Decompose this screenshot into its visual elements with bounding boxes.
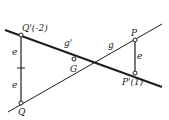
line-g	[8, 24, 162, 112]
label-p: P	[130, 28, 138, 38]
label-q: Q	[18, 107, 26, 117]
label-g-prime: g'	[64, 38, 72, 48]
point-g	[72, 57, 76, 61]
point-q-prime	[19, 33, 23, 37]
label-p-prime: P'(1)	[121, 77, 144, 87]
label-e-left-upper: e	[12, 47, 17, 57]
point-p	[133, 38, 137, 42]
point-q	[19, 101, 23, 105]
label-e-left-lower: e	[12, 80, 17, 90]
point-p-prime	[133, 71, 137, 75]
label-g: g	[108, 40, 114, 50]
projection-diagram: Q'(-2) g' g P e e e G P'(1) Q	[0, 0, 169, 120]
label-g-point: G	[70, 64, 77, 74]
label-q-prime: Q'(-2)	[22, 23, 48, 33]
label-e-right: e	[137, 51, 142, 61]
